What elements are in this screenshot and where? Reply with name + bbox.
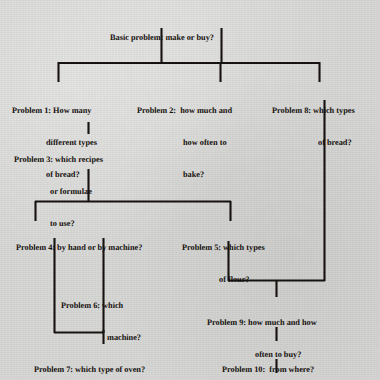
node-problem-3-line-0: Problem 3: which recipes: [14, 155, 154, 166]
node-problem-2[interactable]: Problem 2: how much and how often to bak…: [137, 85, 267, 202]
node-problem-10-line-0: Problem 10: from where?: [222, 365, 348, 376]
node-problem-8-line-0: Problem 8: which types: [272, 106, 378, 117]
node-problem-8-line-1: of bread?: [272, 138, 378, 149]
node-problem-7-line-0: Problem 7: which type of oven?: [34, 365, 194, 376]
node-problem-4[interactable]: Problem 4: by hand or by machine?: [16, 222, 182, 275]
node-problem-10[interactable]: Problem 10: from where?: [222, 344, 348, 380]
node-problem-2-line-1: how often to: [137, 138, 267, 149]
node-basic-problem-line-0: Basic problem: make or buy?: [96, 33, 228, 44]
node-basic-problem[interactable]: Basic problem: make or buy?: [96, 12, 228, 65]
node-problem-3-line-1: or formulae: [14, 187, 154, 198]
node-problem-2-line-2: bake?: [137, 170, 267, 181]
node-problem-6-line-1: machine?: [61, 333, 171, 344]
node-problem-4-line-0: Problem 4: by hand or by machine?: [16, 243, 182, 254]
node-problem-6-line-0: Problem 6: which: [61, 301, 171, 312]
flowchart-sheet: Basic problem: make or buy? Problem 1: H…: [0, 0, 380, 380]
node-problem-8[interactable]: Problem 8: which types of bread?: [272, 85, 378, 170]
node-problem-1-line-0: Problem 1: How many: [12, 106, 132, 117]
node-problem-5-line-1: of flour?: [182, 275, 288, 286]
node-problem-9-line-0: Problem 9: how much and how: [207, 318, 353, 329]
node-problem-7[interactable]: Problem 7: which type of oven?: [34, 344, 194, 380]
node-problem-2-line-0: Problem 2: how much and: [137, 106, 267, 117]
node-problem-5[interactable]: Problem 5: which types of flour?: [182, 222, 288, 307]
node-problem-5-line-0: Problem 5: which types: [182, 243, 288, 254]
